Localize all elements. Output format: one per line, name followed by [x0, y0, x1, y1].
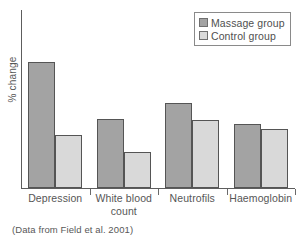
x-tick-label-neutrofils: Neutrofils	[154, 192, 231, 205]
control-swatch-icon	[199, 31, 208, 40]
legend-label-control: Control group	[211, 30, 276, 42]
legend-item-control-group: Control group	[199, 29, 285, 42]
bar-massage-group-white-blood-count	[97, 119, 124, 188]
x-tick-label-depression: Depression	[17, 192, 94, 205]
bar-chart-figure: % change DepressionWhite bloodcountNeutr…	[0, 0, 306, 245]
bar-massage-group-haemoglobin	[234, 124, 261, 188]
x-axis-tick-labels: DepressionWhite bloodcountNeutrofilsHaem…	[21, 192, 295, 226]
chart-legend: Massage group Control group	[194, 12, 291, 46]
bar-control-group-depression	[55, 135, 82, 188]
legend-item-massage-group: Massage group	[199, 16, 285, 29]
x-tick-label-white-blood-count: White bloodcount	[86, 192, 163, 217]
y-axis-label: % change	[7, 40, 18, 120]
bar-control-group-white-blood-count	[124, 152, 151, 188]
massage-swatch-icon	[199, 18, 208, 27]
bar-control-group-neutrofils	[192, 120, 219, 188]
bar-massage-group-neutrofils	[165, 103, 192, 188]
bar-massage-group-depression	[28, 62, 55, 188]
x-tick-label-haemoglobin: Haemoglobin	[223, 192, 300, 205]
bar-control-group-haemoglobin	[261, 129, 288, 188]
legend-label-massage: Massage group	[211, 17, 285, 29]
figure-caption: (Data from Field et al. 2001)	[12, 224, 133, 235]
